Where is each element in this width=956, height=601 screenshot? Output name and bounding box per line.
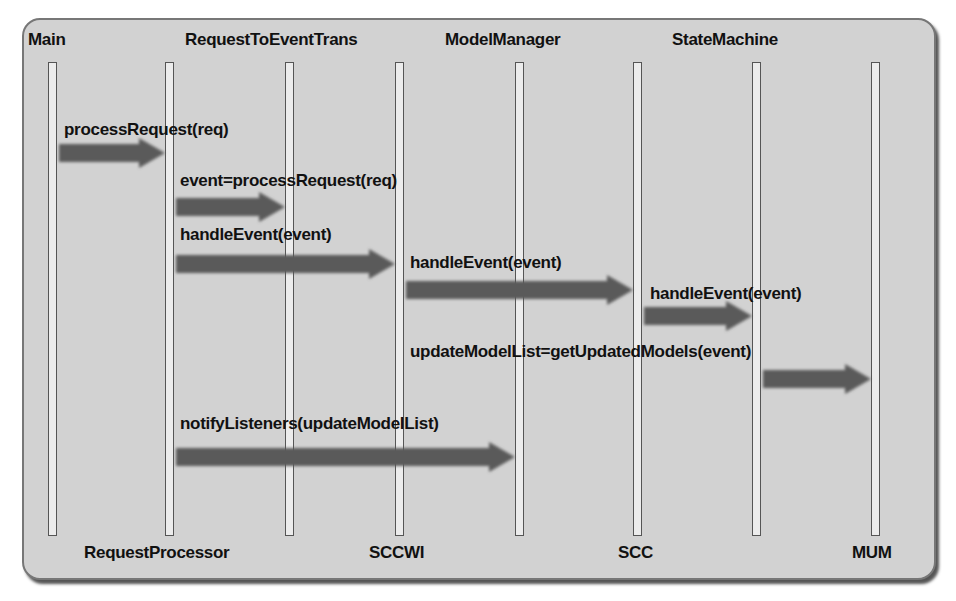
lifeline-mm — [515, 62, 524, 536]
message-label: updateModelList=getUpdatedModels(event) — [410, 342, 751, 362]
message-label: event=processRequest(req) — [180, 171, 397, 191]
lifeline-sccwi — [395, 62, 404, 536]
lifeline-rtet — [285, 62, 294, 536]
message-label: processRequest(req) — [64, 120, 228, 140]
participant-scc: SCC — [618, 543, 653, 563]
participant-sccwi: SCCWI — [369, 543, 424, 563]
lifeline-main — [48, 62, 57, 536]
participant-state-machine: StateMachine — [672, 30, 778, 50]
lifeline-scc — [633, 62, 642, 536]
participant-main: Main — [28, 30, 66, 50]
participant-mum: MUM — [852, 543, 892, 563]
lifeline-mum — [871, 62, 880, 536]
participant-model-manager: ModelManager — [445, 30, 560, 50]
message-label: handleEvent(event) — [650, 284, 801, 304]
participant-request-processor: RequestProcessor — [84, 543, 229, 563]
message-label: handleEvent(event) — [410, 253, 561, 273]
participant-request-to-event-trans: RequestToEventTrans — [185, 30, 358, 50]
message-label: handleEvent(event) — [180, 225, 331, 245]
message-label: notifyListeners(updateModelList) — [180, 414, 439, 434]
